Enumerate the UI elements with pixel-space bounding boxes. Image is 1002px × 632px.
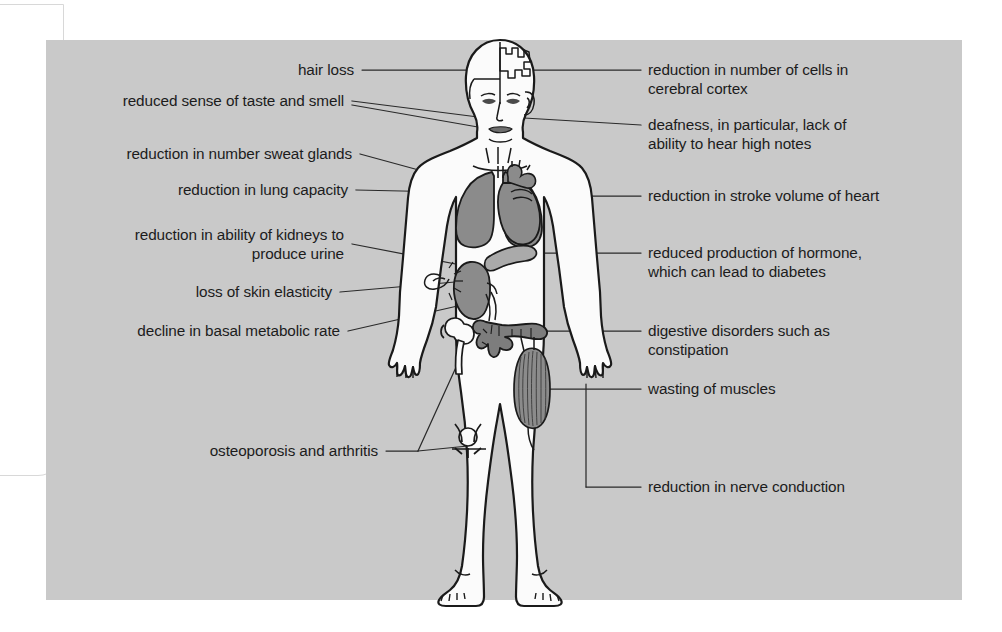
label-taste-smell: reduced sense of taste and smell <box>14 91 344 110</box>
label-digestive-disorders: digestive disorders such as constipation <box>648 321 968 359</box>
label-wasting-muscles: wasting of muscles <box>648 379 968 398</box>
body-outline <box>389 40 612 606</box>
mouth-icon <box>489 127 512 133</box>
label-metabolic-rate: decline in basal metabolic rate <box>10 321 340 340</box>
label-nerve-conduction: reduction in nerve conduction <box>648 477 968 496</box>
label-hair-loss: hair loss <box>54 60 354 79</box>
leader-taste-smell <box>352 101 486 118</box>
label-sweat-glands: reduction in number sweat glands <box>22 144 352 163</box>
acetabulum <box>441 325 444 338</box>
label-osteoporosis-arthritis: osteoporosis and arthritis <box>48 441 378 460</box>
label-stroke-volume: reduction in stroke volume of heart <box>648 186 978 205</box>
label-kidneys-urine: reduction in ability of kidneys to produ… <box>14 225 344 263</box>
leader-deafness <box>524 118 641 125</box>
human-figure <box>389 40 612 606</box>
label-deafness: deafness, in particular, lack of ability… <box>648 115 968 153</box>
diagram-stage: hair loss reduced sense of taste and sme… <box>0 0 1002 632</box>
label-hormone-diabetes: reduced production of hormone, which can… <box>648 243 968 281</box>
label-skin-elasticity: loss of skin elasticity <box>2 282 332 301</box>
label-cerebral-cortex: reduction in number of cells in cerebral… <box>648 60 968 98</box>
label-lung-capacity: reduction in lung capacity <box>18 180 348 199</box>
